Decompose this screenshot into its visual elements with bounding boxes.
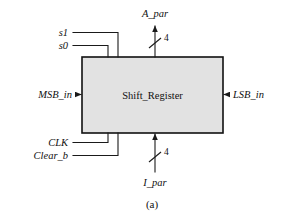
label-s0: s0 xyxy=(59,40,69,51)
figure-diagram: Shift_Register s1 s0 CLK Clear_b MSB_in … xyxy=(0,0,301,216)
shift-register-block-label: Shift_Register xyxy=(122,90,183,101)
label-clear-b: Clear_b xyxy=(34,150,68,161)
bus-width-a-par: 4 xyxy=(164,33,169,43)
label-i-par: I_par xyxy=(142,177,167,188)
block-diagram-canvas: Shift_Register s1 s0 CLK Clear_b MSB_in … xyxy=(0,0,301,216)
figure-caption: (a) xyxy=(146,198,159,211)
label-s1: s1 xyxy=(59,27,68,38)
label-clk: CLK xyxy=(48,137,69,148)
wire-clk xyxy=(73,133,108,143)
label-a-par: A_par xyxy=(141,8,169,19)
label-lsb-in: LSB_in xyxy=(232,89,264,100)
wire-clear-b xyxy=(73,133,118,156)
label-msb-in: MSB_in xyxy=(37,89,72,100)
wire-s1 xyxy=(73,33,118,58)
bus-width-i-par: 4 xyxy=(164,147,169,157)
wire-s0 xyxy=(73,46,108,58)
